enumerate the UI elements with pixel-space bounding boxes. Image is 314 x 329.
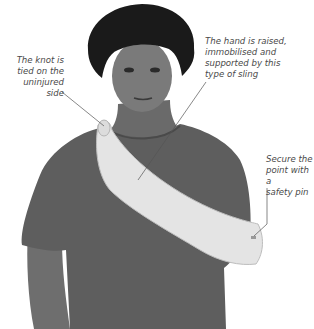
annotation-knot-line: uninjured side — [8, 77, 64, 99]
leader-line-knot — [62, 92, 104, 126]
annotation-hand-line: The hand is raised, — [205, 36, 305, 47]
annotation-knot-line: The knot is — [8, 55, 64, 66]
annotation-hand-line: supported by this — [205, 58, 305, 69]
annotation-hand-line: immobilised and — [205, 47, 305, 58]
safety-pin — [251, 236, 256, 239]
annotation-hand-line: type of sling — [205, 69, 305, 80]
annotation-knot-line: tied on the — [8, 66, 64, 77]
annotation-pin: Secure the point with a safety pin — [266, 154, 314, 198]
face — [112, 40, 172, 112]
annotation-pin-line: safety pin — [266, 187, 314, 198]
annotation-knot: The knot is tied on the uninjured side — [8, 55, 64, 99]
annotation-pin-line: point with a — [266, 165, 314, 187]
sling-diagram: The knot is tied on the uninjured side T… — [0, 0, 314, 329]
annotation-pin-line: Secure the — [266, 154, 314, 165]
annotation-hand: The hand is raised, immobilised and supp… — [205, 36, 305, 80]
